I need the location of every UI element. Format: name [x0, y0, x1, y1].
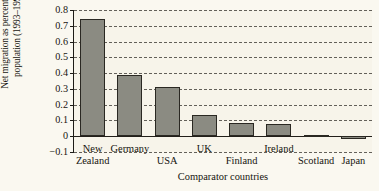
x-axis-category-label: Ireland: [264, 143, 293, 154]
x-axis-title: Comparator countries: [74, 171, 372, 183]
y-axis-title-line2: population (1993–1997): [12, 0, 24, 108]
bar: [155, 87, 180, 137]
bar: [80, 19, 105, 137]
y-axis-tick-label: 0.5: [55, 52, 68, 62]
y-axis-tick-label: 0: [63, 131, 68, 141]
y-axis-tick-label: 0.7: [55, 21, 68, 31]
y-axis-title: Net migration as percentage of populatio…: [0, 0, 30, 108]
y-axis-tick-label: 0.3: [55, 84, 68, 94]
bar: [229, 123, 254, 136]
y-axis-tick-label: 0.8: [55, 5, 68, 15]
y-axis-tick-label: 0.2: [55, 100, 68, 110]
y-axis-tick: [70, 152, 74, 153]
x-axis-category-label: Finland: [226, 155, 258, 166]
y-axis-tick-label: 0.4: [55, 68, 68, 78]
y-axis-tick-label: 0.1: [55, 115, 68, 125]
y-axis-tick-label: 0.6: [55, 37, 68, 47]
x-axis-category-label: Scotland: [298, 155, 334, 166]
x-axis-category-label: Germany: [111, 143, 150, 154]
bar: [266, 124, 291, 137]
x-axis-category-label: Zealand: [76, 155, 109, 166]
x-axis-category-label: UK: [197, 143, 212, 154]
x-axis-category-label: New: [83, 143, 103, 154]
bar: [192, 115, 217, 136]
x-axis-category-label: Japan: [342, 155, 366, 166]
x-axis-category-label: USA: [157, 155, 178, 166]
bar-series: [74, 10, 372, 152]
bar-chart-figure: Net migration as percentage of populatio…: [0, 0, 379, 191]
y-axis-title-line1: Net migration as percentage of: [0, 0, 12, 108]
bar: [341, 136, 366, 138]
plot-area: [74, 10, 372, 152]
y-axis-tick-label: −0.1: [50, 147, 68, 157]
bar: [117, 75, 142, 136]
bar: [304, 135, 329, 137]
